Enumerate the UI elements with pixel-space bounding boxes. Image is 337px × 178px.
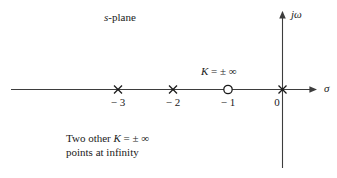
- real-axis-label: σ: [324, 83, 329, 94]
- infinity-points-note-line-2: points at infinity: [66, 146, 246, 160]
- imaginary-axis-label-omega: ω: [294, 8, 302, 20]
- tick-label-minus-3: − 3: [103, 97, 133, 108]
- infinity-points-note: Two other K = ± ∞ points at infinity: [66, 132, 246, 160]
- pole-marker-origin: [279, 86, 287, 94]
- imaginary-axis-label: jω: [291, 9, 302, 20]
- s-plane-label-suffix: -plane: [108, 11, 135, 23]
- zero-marker-minus-1: [224, 85, 232, 93]
- s-plane-label: s-plane: [104, 12, 136, 23]
- pole-marker-minus-3: [114, 86, 122, 94]
- note-line-1-suffix: = ± ∞: [121, 132, 149, 144]
- note-line-1-prefix: Two other: [66, 132, 114, 144]
- zero-gain-annotation: K = ± ∞: [201, 66, 237, 77]
- pole-marker-minus-2: [169, 86, 177, 94]
- tick-label-minus-1: − 1: [213, 97, 243, 108]
- gain-value-text: = ± ∞: [208, 65, 236, 77]
- tick-label-zero: 0: [262, 97, 292, 108]
- infinity-points-note-line-1: Two other K = ± ∞: [66, 132, 246, 146]
- note-gain-symbol-k: K: [114, 132, 121, 144]
- tick-label-minus-2: − 2: [158, 97, 188, 108]
- root-pole-zero-plot: s-plane jω σ K = ± ∞ − 3 − 2 − 1 0 Two o…: [0, 0, 337, 178]
